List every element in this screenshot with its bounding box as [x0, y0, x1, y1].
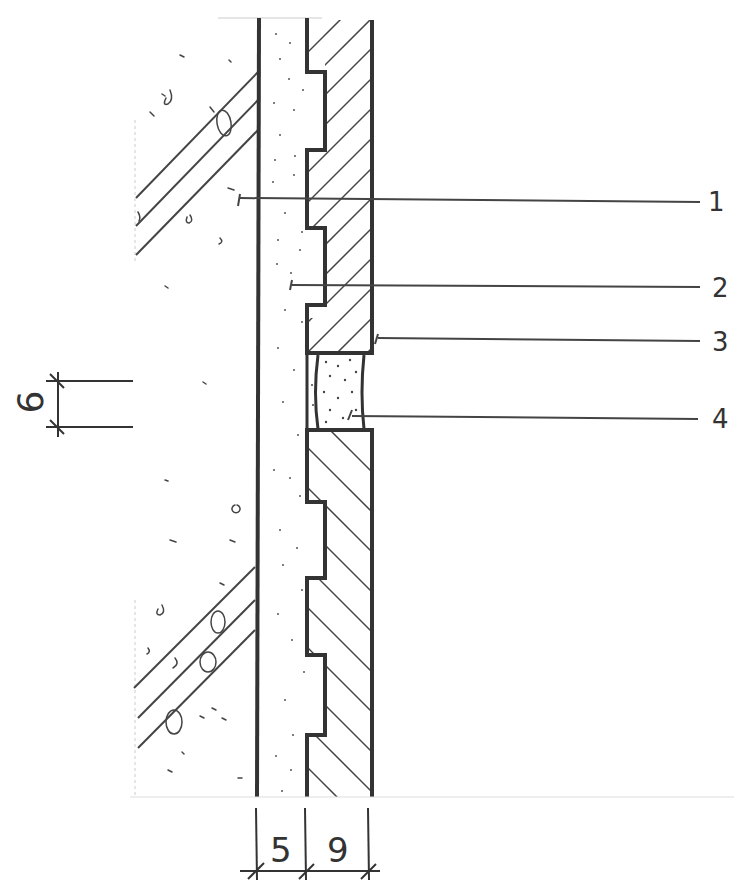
callout-label-2: 2 — [712, 275, 729, 301]
dimension-text-joint: 6 — [13, 391, 49, 414]
callout-label-1: 1 — [708, 189, 725, 215]
dimension-thickness — [240, 808, 380, 880]
rebar-bottom — [134, 567, 255, 748]
wall-face-line — [257, 18, 259, 797]
dimension-joint-height — [46, 372, 133, 437]
section-drawing — [0, 0, 734, 895]
callout-label-3: 3 — [712, 329, 729, 355]
callout-label-4: 4 — [712, 406, 729, 432]
dimension-text-tile: 9 — [327, 833, 349, 867]
facing-tile-lower — [300, 400, 380, 840]
concrete-base — [134, 18, 322, 797]
mortar-bed — [272, 33, 305, 792]
rebar-top — [136, 72, 258, 255]
facing-tile-upper — [300, 0, 372, 420]
dimension-text-mortar: 5 — [270, 833, 292, 867]
joint-filler — [307, 353, 364, 430]
